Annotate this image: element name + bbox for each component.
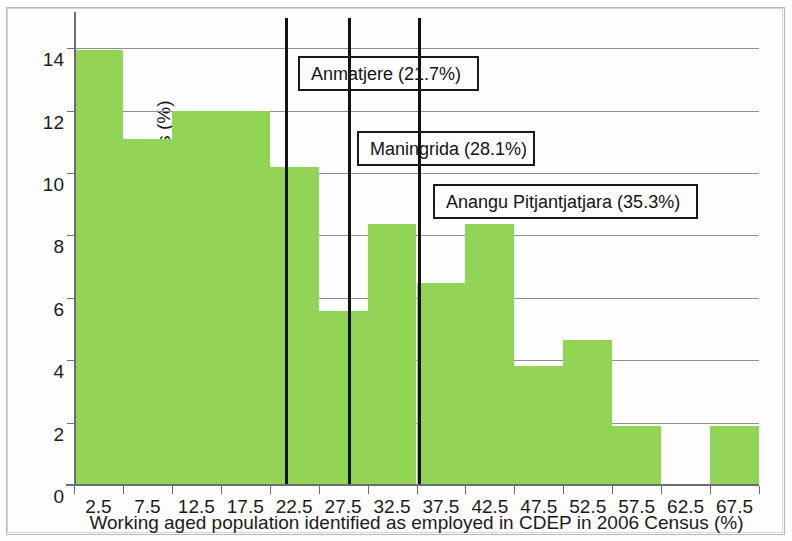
x-tick-mark — [74, 486, 75, 494]
y-tick-mark — [67, 48, 74, 49]
x-tick-mark — [759, 486, 760, 494]
annotation-label: Maningrida (28.1%) — [357, 131, 535, 166]
bar — [465, 224, 514, 485]
bar — [221, 111, 270, 485]
marker-line — [285, 18, 288, 485]
bar — [514, 366, 563, 485]
gridline — [74, 48, 759, 49]
x-tick-mark — [612, 486, 613, 494]
x-tick-mark — [368, 486, 369, 494]
bar — [368, 224, 417, 485]
x-tick-mark — [319, 486, 320, 494]
y-tick-mark — [67, 173, 74, 174]
annotation-label: Anangu Pitjantjatjara (35.3%) — [433, 184, 698, 219]
bar — [123, 139, 172, 485]
bar — [270, 167, 319, 485]
bar — [172, 111, 221, 485]
bar — [417, 283, 466, 485]
y-tick-mark — [67, 111, 74, 112]
y-axis-line — [74, 12, 76, 486]
y-tick-mark — [67, 485, 74, 486]
x-tick-mark — [563, 486, 564, 494]
y-axis-title-wrap: The proportion of remote IAREs (%) — [0, 18, 40, 486]
x-tick-mark — [417, 486, 418, 494]
x-tick-mark — [123, 486, 124, 494]
bar — [612, 426, 661, 485]
x-tick-mark — [710, 486, 711, 494]
y-tick-mark — [67, 235, 74, 236]
annotation-label: Anmatjere (21.7%) — [298, 56, 479, 91]
y-tick-mark — [67, 423, 74, 424]
x-tick-mark — [465, 486, 466, 494]
x-tick-mark — [661, 486, 662, 494]
bar — [710, 426, 759, 485]
bar — [319, 311, 368, 485]
histogram-figure: The proportion of remote IAREs (%) 02468… — [0, 0, 792, 541]
x-tick-mark — [221, 486, 222, 494]
x-tick-mark — [514, 486, 515, 494]
bar — [74, 50, 123, 485]
x-axis-title: Working aged population identified as em… — [74, 512, 759, 534]
y-tick-mark — [67, 360, 74, 361]
y-tick-mark — [67, 298, 74, 299]
x-tick-mark — [172, 486, 173, 494]
x-axis-line — [66, 484, 759, 486]
x-tick-mark — [270, 486, 271, 494]
bar — [563, 340, 612, 485]
